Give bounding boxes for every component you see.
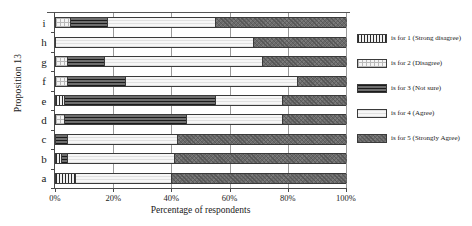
bar-segment-5 (175, 154, 347, 163)
bar-segment-3 (68, 77, 126, 86)
bar-segment-1 (56, 174, 76, 183)
bar-segment-3 (56, 135, 68, 144)
legend-item-2: is for 2 (Disagree) (357, 59, 471, 69)
bar-segment-5 (216, 18, 347, 27)
bar-segment-5 (254, 38, 347, 47)
y-tick-label-a: a (38, 172, 50, 184)
bar-segment-5 (172, 174, 347, 183)
x-tick-label: 100% (336, 193, 356, 203)
legend-label-1: is for 1 (Strong disagree) (391, 33, 461, 44)
stacked-bar (55, 173, 346, 184)
stacked-bar (55, 134, 346, 145)
y-tick (51, 130, 55, 131)
y-tick (51, 91, 55, 92)
x-tick-label: 80% (280, 193, 296, 203)
legend-label-3: is for 3 (Not sure) (391, 83, 441, 94)
y-tick (51, 169, 55, 170)
bar-segment-3 (71, 18, 109, 27)
x-tick (171, 188, 172, 192)
legend-swatch-5 (357, 134, 387, 143)
bar-segment-4 (187, 115, 283, 124)
y-tick-label-d: d (38, 114, 50, 126)
stacked-bar (55, 56, 346, 67)
x-tick-label: 40% (164, 193, 180, 203)
y-tick-label-g: g (38, 56, 50, 68)
bar-segment-2 (56, 57, 68, 66)
bar-segment-3 (68, 57, 106, 66)
chart-container: Proposition 13 0%20%40%60%80%100% ihgfed… (0, 0, 472, 226)
y-tick-label-b: b (38, 153, 50, 165)
bar-segment-4 (126, 77, 298, 86)
x-tick-label: 60% (222, 193, 238, 203)
bar-segment-3 (65, 96, 216, 105)
bar-segment-5 (298, 77, 347, 86)
bar-segment-4 (76, 174, 172, 183)
y-axis-title: Proposition 13 (13, 37, 23, 129)
stacked-bar (55, 37, 346, 48)
legend-swatch-3 (357, 84, 387, 93)
y-tick-label-e: e (38, 95, 50, 107)
y-tick-label-i: i (38, 17, 50, 29)
y-tick-label-f: f (38, 75, 50, 87)
bar-segment-3 (65, 115, 187, 124)
legend-label-2: is for 2 (Disagree) (391, 58, 442, 69)
bar-segment-2 (56, 115, 65, 124)
stacked-bar (55, 17, 346, 28)
bar-segment-2 (56, 77, 68, 86)
x-axis-title: Percentage of respondents (55, 205, 346, 215)
legend-item-1: is for 1 (Strong disagree) (357, 34, 471, 44)
legend-item-5: is for 5 (Strongly Agree) (357, 134, 471, 144)
stacked-bar (55, 95, 346, 106)
plot-area: 0%20%40%60%80%100% ihgfedcba Percentage … (55, 13, 346, 188)
legend: is for 1 (Strong disagree)is for 2 (Disa… (357, 34, 471, 160)
bar-segment-5 (283, 96, 347, 105)
bar-segment-4 (68, 135, 179, 144)
y-tick-label-c: c (38, 133, 50, 145)
stacked-bar (55, 76, 346, 87)
legend-swatch-4 (357, 109, 387, 118)
legend-item-3: is for 3 (Not sure) (357, 84, 471, 94)
bar-segment-1 (56, 96, 65, 105)
x-tick (55, 188, 56, 192)
legend-swatch-1 (357, 34, 387, 43)
bar-segment-5 (263, 57, 347, 66)
x-axis-line (54, 188, 347, 189)
y-tick (51, 188, 55, 189)
legend-label-5: is for 5 (Strongly Agree) (391, 133, 460, 144)
stacked-bar (55, 114, 346, 125)
legend-item-4: is for 4 (Agree) (357, 109, 471, 119)
bar-segment-4 (56, 38, 254, 47)
y-tick (51, 149, 55, 150)
x-tick-label: 0% (49, 193, 60, 203)
y-tick (51, 71, 55, 72)
x-tick (113, 188, 114, 192)
y-tick (51, 52, 55, 53)
x-tick (288, 188, 289, 192)
legend-label-4: is for 4 (Agree) (391, 108, 434, 119)
bar-segment-5 (178, 135, 347, 144)
bar-segment-2 (56, 18, 71, 27)
y-tick-label-h: h (38, 36, 50, 48)
stacked-bar (55, 153, 346, 164)
x-tick (230, 188, 231, 192)
x-tick-label: 20% (105, 193, 121, 203)
bar-segment-4 (216, 96, 283, 105)
x-tick (346, 188, 347, 192)
plot-top-border (47, 12, 350, 13)
bar-segment-4 (108, 18, 216, 27)
bar-segment-4 (105, 57, 262, 66)
bar-segment-5 (283, 115, 347, 124)
legend-swatch-2 (357, 59, 387, 68)
bar-segment-4 (68, 154, 176, 163)
y-tick (51, 110, 55, 111)
y-tick (51, 32, 55, 33)
